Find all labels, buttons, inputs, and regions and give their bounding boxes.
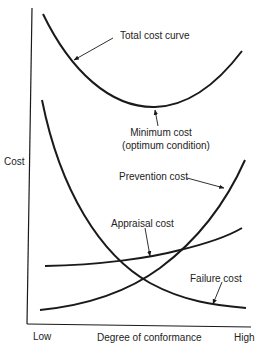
appraisal-cost-arrow <box>145 228 150 256</box>
total-cost-arrow <box>74 38 113 60</box>
y-axis <box>27 8 32 324</box>
y-axis-label: Cost <box>4 156 25 167</box>
x-axis-low-label: Low <box>33 331 51 342</box>
failure-cost-arrow <box>213 282 222 304</box>
x-axis-label: Degree of conformance <box>97 332 202 343</box>
minimum-cost-label: Minimum cost <box>128 127 194 138</box>
optimum-condition-label: (optimum condition) <box>118 140 214 151</box>
prevention-cost-arrow <box>187 178 224 188</box>
x-axis <box>27 324 251 327</box>
prevention-cost-curve <box>40 160 245 310</box>
minimum-cost-arrow <box>155 110 158 126</box>
total-cost-curve <box>43 14 242 107</box>
appraisal-cost-label: Appraisal cost <box>111 218 174 229</box>
x-axis-high-label: High <box>234 332 255 343</box>
prevention-cost-label: Prevention cost <box>119 171 188 182</box>
total-cost-label: Total cost curve <box>120 30 189 41</box>
appraisal-cost-curve <box>45 228 242 266</box>
failure-cost-label: Failure cost <box>190 273 242 284</box>
